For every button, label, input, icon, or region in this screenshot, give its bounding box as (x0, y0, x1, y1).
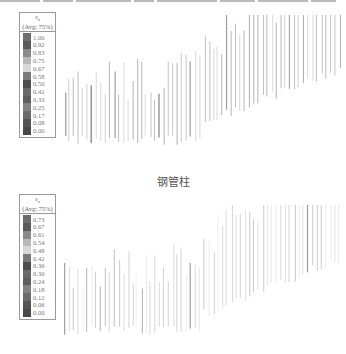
legend-row: 0.08 (23, 119, 55, 127)
legend-row: 0.30 (23, 270, 55, 278)
legend-swatch (23, 80, 31, 88)
legend-row: 0.48 (23, 246, 55, 254)
legend-row: 0.25 (23, 103, 55, 111)
legend-swatch (23, 215, 31, 223)
legend-avg-label: (Avg: 75%) (22, 205, 52, 212)
legend-value: 0.58 (33, 73, 44, 80)
legend-row: 0.36 (23, 262, 55, 270)
legend-header: εu (Avg: 75%) (20, 195, 55, 214)
legend-swatch (23, 239, 31, 247)
legend-row: 0.12 (23, 293, 55, 301)
legend-swatch (23, 231, 31, 239)
legend-row: 0.75 (23, 57, 55, 65)
legend-swatch (23, 49, 31, 57)
legend-swatch (23, 88, 31, 96)
legend-row: 0.50 (23, 80, 55, 88)
legend-swatch (23, 127, 31, 135)
legend-swatch (23, 96, 31, 104)
legend-value: 1.00 (33, 34, 44, 41)
legend-row: 0.00 (23, 309, 55, 317)
legend-swatch (23, 270, 31, 278)
legend-value: 0.83 (33, 49, 44, 56)
legend-value: 0.50 (33, 80, 44, 87)
legend-swatch (23, 103, 31, 111)
legend-value: 0.73 (33, 216, 44, 223)
legend-swatch (23, 254, 31, 262)
legend-swatch (23, 301, 31, 309)
steel-tube-column-strain-field-bottom (60, 200, 346, 350)
legend-value: 0.25 (33, 104, 44, 111)
legend-row: 0.58 (23, 72, 55, 80)
legend-swatch (23, 119, 31, 127)
legend-value: 0.12 (33, 294, 44, 301)
legend-swatch (23, 262, 31, 270)
legend-row: 0.54 (23, 239, 55, 247)
legend-row: 0.73 (23, 215, 55, 223)
steel-tube-column-strain-field-top (60, 10, 346, 160)
legend-value: 0.06 (33, 301, 44, 308)
legend-value: 0.30 (33, 270, 44, 277)
legend-value: 0.75 (33, 57, 44, 64)
legend-value: 0.67 (33, 223, 44, 230)
legend-avg-label: (Avg: 75%) (22, 23, 52, 30)
legend-header: εu (Avg: 75%) (20, 13, 55, 32)
legend-value: 0.18 (33, 286, 44, 293)
legend-swatch (23, 111, 31, 119)
legend-row: 0.67 (23, 64, 55, 72)
cropped-text-line (0, 0, 346, 4)
legend-row: 0.00 (23, 127, 55, 135)
legend-swatch (23, 293, 31, 301)
legend-row: 0.42 (23, 88, 55, 96)
legend-row: 0.17 (23, 111, 55, 119)
legend-rows: 1.000.920.830.750.670.580.500.420.330.25… (20, 32, 55, 136)
legend-variable: εu (20, 14, 55, 23)
legend-value: 0.36 (33, 262, 44, 269)
legend-value: 0.08 (33, 119, 44, 126)
legend-swatch (23, 57, 31, 65)
legend-swatch (23, 246, 31, 254)
legend-row: 0.33 (23, 96, 55, 104)
contour-legend-top: εu (Avg: 75%) 1.000.920.830.750.670.580.… (19, 12, 56, 138)
legend-swatch (23, 278, 31, 286)
legend-swatch (23, 33, 31, 41)
legend-rows: 0.730.670.610.540.480.420.360.300.240.18… (20, 214, 55, 318)
legend-row: 0.61 (23, 231, 55, 239)
legend-value: 0.17 (33, 112, 44, 119)
legend-value: 0.92 (33, 41, 44, 48)
legend-value: 0.42 (33, 88, 44, 95)
legend-row: 1.00 (23, 33, 55, 41)
legend-value: 0.24 (33, 278, 44, 285)
legend-value: 0.42 (33, 255, 44, 262)
legend-swatch (23, 309, 31, 317)
legend-swatch (23, 223, 31, 231)
legend-variable: εu (20, 196, 55, 205)
legend-row: 0.42 (23, 254, 55, 262)
contour-legend-bottom: εu (Avg: 75%) 0.730.670.610.540.480.420.… (19, 194, 56, 320)
legend-row: 0.24 (23, 278, 55, 286)
legend-row: 0.92 (23, 41, 55, 49)
legend-swatch (23, 64, 31, 72)
legend-swatch (23, 72, 31, 80)
legend-row: 0.18 (23, 285, 55, 293)
legend-value: 0.00 (33, 127, 44, 134)
legend-value: 0.54 (33, 239, 44, 246)
legend-swatch (23, 285, 31, 293)
legend-swatch (23, 41, 31, 49)
legend-value: 0.48 (33, 247, 44, 254)
figure-caption: 钢管柱 (0, 173, 346, 189)
legend-value: 0.00 (33, 309, 44, 316)
legend-row: 0.83 (23, 49, 55, 57)
legend-row: 0.67 (23, 223, 55, 231)
legend-row: 0.06 (23, 301, 55, 309)
legend-value: 0.67 (33, 65, 44, 72)
legend-value: 0.33 (33, 96, 44, 103)
legend-value: 0.61 (33, 231, 44, 238)
